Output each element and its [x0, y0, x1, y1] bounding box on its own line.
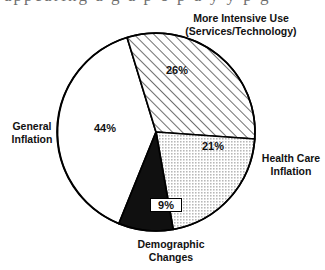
slice-label-general-inflation: General Inflation	[4, 120, 60, 145]
slice-value-more-intensive-use: 26%	[160, 64, 194, 76]
slice-label-more-intensive-use: More Intensive Use (Services/Technology)	[160, 12, 322, 37]
pie-chart-figure: appearing a g a p o p a y y p g More Int	[0, 0, 325, 270]
slice-value-health-care-inflation: 21%	[196, 140, 230, 152]
slice-label-demographic-changes: Demographic Changes	[112, 238, 230, 263]
slice-value-demographic-changes: 9%	[150, 198, 182, 212]
slice-value-general-inflation: 44%	[88, 122, 122, 134]
slice-label-health-care-inflation: Health Care Inflation	[258, 152, 324, 177]
